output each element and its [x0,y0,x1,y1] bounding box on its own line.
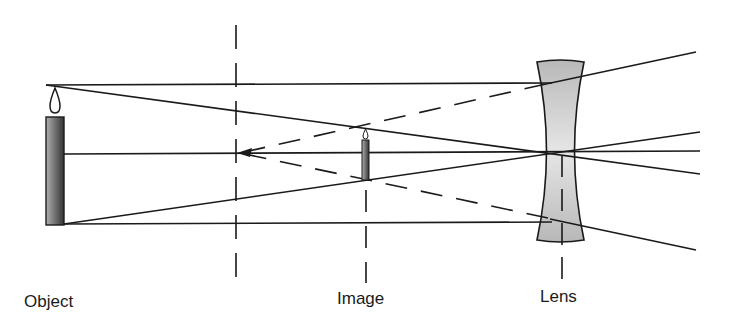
optical-axis [64,151,700,154]
lens-label: Lens [540,287,577,307]
image-label: Image [337,289,384,309]
object-candle [46,117,64,225]
ray-bottom-virtual [240,153,548,218]
arrowhead-icon [237,148,252,157]
image-candle [362,140,369,180]
ray-top-parallel [46,83,552,85]
ray-top-virtual [240,84,546,153]
optics-diagram [0,0,740,330]
ray-bottom-parallel [64,222,552,224]
object-label: Object [24,292,73,312]
ray-top-chief [46,85,700,174]
image-flame-icon [363,129,368,139]
object-flame-icon [50,88,60,113]
ray-bottom-chief [64,132,700,224]
